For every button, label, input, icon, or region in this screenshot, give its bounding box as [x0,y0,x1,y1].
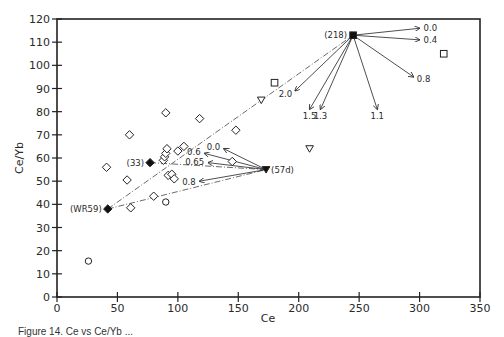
vector-label: 0.4 [424,35,438,45]
diamond-open-marker [232,126,240,134]
x-tick-label: 150 [228,302,249,315]
vector-arrow [200,170,266,182]
diamond-open-marker [195,114,203,122]
y-tick-label: 120 [29,13,50,26]
mixing-lines [108,35,353,209]
vector-arrow [208,163,266,170]
diamond-open-marker [123,176,131,184]
figure-caption: Figure 14. Ce vs Ce/Yb ... [18,326,133,337]
vector-label: 0.8 [417,74,431,84]
y-tick-label: 30 [36,222,50,235]
square-open-marker [440,50,447,57]
vector-label: 0.0 [424,23,438,33]
y-tick-label: 90 [36,83,50,96]
circle-open-marker [85,258,91,264]
fractionation-vectors: 0.00.40.81.11.31.52.00.00.60.650.8 [182,23,437,187]
x-tick-label: 50 [110,302,124,315]
y-axis-title: Ce/Yb [13,142,26,174]
vector-arrow [310,35,354,109]
vector-label: 1.1 [371,111,385,121]
square-open-marker [271,79,278,86]
vector-label: 0.6 [187,147,201,157]
mixing-line [108,35,353,209]
x-tick-label: 350 [470,302,491,315]
end-member-label: (WR59) [70,204,102,214]
x-tick-label: 250 [349,302,370,315]
point-labels: (218)(33)(WR59)(57d) [70,30,347,214]
x-axis-title: Ce [261,312,276,325]
diamond-filled-marker [146,158,154,166]
x-tick-label: 100 [167,302,188,315]
y-tick-label: 110 [29,36,50,49]
vector-arrow [295,35,353,91]
axis-ticks: 0501001502002503003500102030405060708090… [29,13,491,315]
vector-arrow [353,35,413,77]
plot-border [57,19,480,297]
data-points [85,32,447,264]
y-tick-label: 50 [36,175,50,188]
vector-label: 0.0 [207,142,221,152]
y-tick-label: 70 [36,129,50,142]
vector-arrow [353,28,419,35]
diamond-open-marker [149,192,157,200]
x-tick-label: 300 [409,302,430,315]
vector-label: 1.5 [303,111,317,121]
y-tick-label: 80 [36,106,50,119]
triangle-open-marker [306,146,314,153]
y-tick-label: 100 [29,59,50,72]
end-member-label: (57d) [271,165,294,175]
end-member-label: (33) [127,158,144,168]
diamond-filled-marker [104,205,112,213]
y-tick-label: 0 [43,291,50,304]
y-tick-label: 60 [36,152,50,165]
vector-label: 0.65 [185,157,204,167]
diamond-open-marker [162,109,170,117]
x-tick-label: 200 [288,302,309,315]
vector-label: 0.8 [182,177,196,187]
mixing-line [108,170,266,209]
y-tick-label: 20 [36,245,50,258]
diamond-open-marker [125,131,133,139]
y-tick-label: 10 [36,268,50,281]
diamond-open-marker [127,204,135,212]
vector-label: 2.0 [279,89,293,99]
plot-frame [57,19,480,297]
diamond-open-marker [228,157,236,165]
vector-arrow [353,35,377,109]
y-tick-label: 40 [36,198,50,211]
mixing-line [150,163,266,170]
circle-open-marker [163,199,169,205]
vector-arrow [353,35,419,40]
diamond-open-marker [102,163,110,171]
x-tick-label: 0 [54,302,61,315]
square-filled-marker [350,32,357,39]
end-member-label: (218) [324,30,347,40]
